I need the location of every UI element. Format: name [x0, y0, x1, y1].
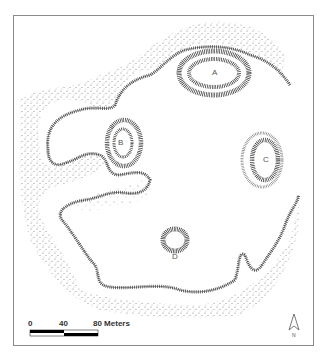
scale-bar [30, 330, 98, 336]
mound-c-label: C [263, 155, 269, 164]
scale-tick-0: 0 [28, 319, 32, 328]
mound-a-label: A [212, 68, 217, 77]
site-map [0, 0, 325, 360]
north-label: N [292, 332, 296, 338]
scale-tick-80-meters: 80 Meters [93, 319, 130, 328]
mound-d-label: D [172, 252, 178, 261]
stipple-slopes [19, 22, 300, 318]
mound-c[interactable] [242, 133, 282, 187]
mound-b[interactable] [107, 120, 141, 166]
mound-d[interactable] [163, 229, 187, 251]
mound-b-label: B [118, 138, 123, 147]
north-arrow-icon [289, 314, 299, 330]
scale-tick-40: 40 [59, 319, 68, 328]
